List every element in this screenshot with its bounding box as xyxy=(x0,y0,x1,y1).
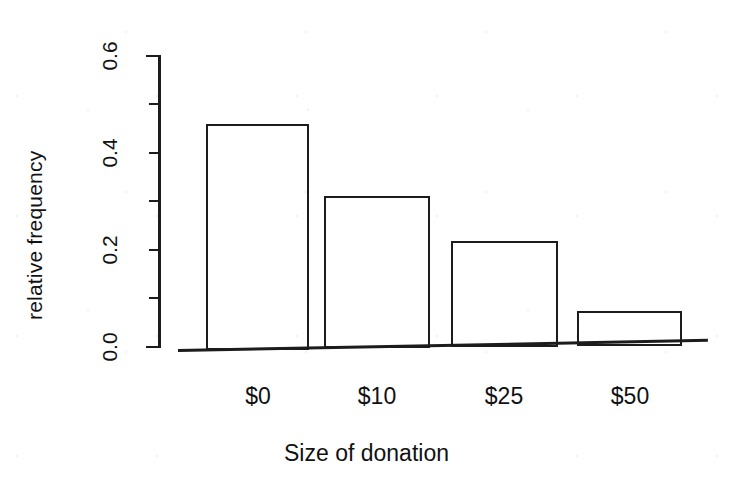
bar-10 xyxy=(324,196,430,348)
y-axis-tick-0.4 xyxy=(149,152,160,154)
y-tick-label-0.2: 0.2 xyxy=(97,215,123,285)
y-axis-title: relative frequency xyxy=(18,20,52,320)
y-tick-label-0.4: 0.4 xyxy=(97,118,123,188)
y-axis-tick-0.1 xyxy=(149,297,160,299)
y-axis-tick-0.6 xyxy=(146,55,160,57)
bar-0 xyxy=(206,124,309,350)
x-tick-label-50: $50 xyxy=(580,381,680,411)
x-tick-label-10: $10 xyxy=(327,381,427,411)
x-tick-label-0: $0 xyxy=(208,381,308,411)
y-axis-tick-0.5 xyxy=(149,103,160,105)
y-axis-tick-0.3 xyxy=(149,200,160,202)
bar-25 xyxy=(451,241,558,347)
bar-chart-figure: relative frequency 0.6 0.4 0.2 0.0 $0 $1… xyxy=(0,0,733,492)
x-axis-title: Size of donation xyxy=(0,440,733,467)
bar-50 xyxy=(577,311,682,346)
y-axis-tick-0.2 xyxy=(149,249,160,251)
x-tick-label-25: $25 xyxy=(454,381,554,411)
y-tick-label-0.6: 0.6 xyxy=(97,21,123,91)
y-axis-tick-0.0 xyxy=(146,346,160,348)
y-tick-label-0.0: 0.0 xyxy=(97,312,123,382)
